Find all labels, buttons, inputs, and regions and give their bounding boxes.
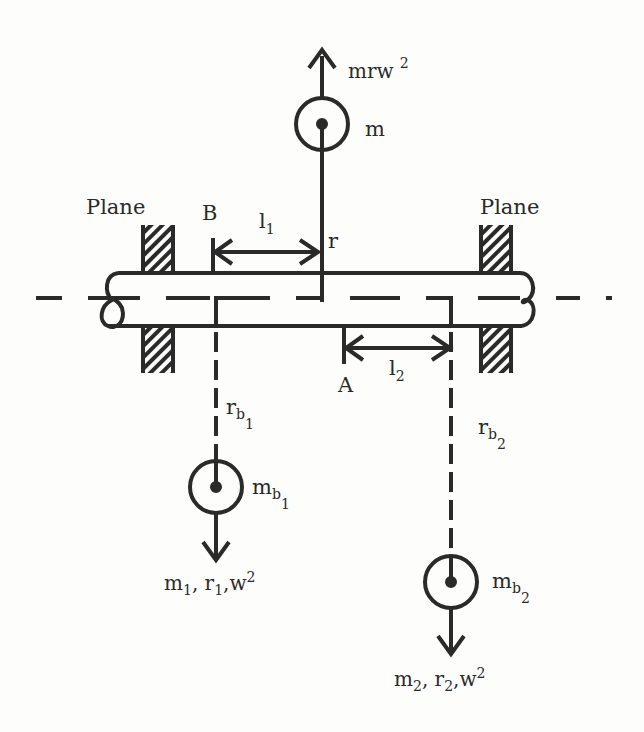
shaft: [102, 273, 534, 327]
mb2-label: mb2: [492, 569, 530, 606]
plane-right-label: Plane: [480, 195, 539, 219]
point-a-label: A: [337, 373, 354, 397]
force-top-label: mrw2: [348, 55, 409, 83]
plane-left-label: Plane: [86, 195, 145, 219]
balance-mass-2: [425, 298, 477, 654]
l1-label: l1: [259, 209, 275, 237]
radius-r-label: r: [328, 229, 339, 253]
mb1-label: mb1: [252, 475, 290, 512]
dimension-l2: [344, 328, 450, 364]
dimension-l1: [213, 238, 318, 272]
force-2-label: m2, r2,w2: [394, 665, 486, 694]
rb1-label: rb1: [226, 395, 254, 432]
l2-label: l2: [389, 356, 405, 384]
top-mass-assembly: [296, 50, 348, 302]
point-b-label: B: [202, 201, 217, 225]
force-1-label: m1, r1,w2: [164, 569, 256, 598]
mass-top-label: m: [365, 117, 385, 141]
rb2-label: rb2: [478, 415, 506, 452]
balance-mass-1: [190, 298, 242, 560]
balancing-diagram: mrw2 m r Plane Plane B A l1 l2 rb1 rb2 m…: [0, 0, 644, 732]
